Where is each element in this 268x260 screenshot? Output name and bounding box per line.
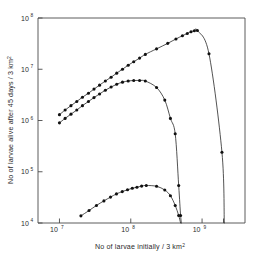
data-point — [121, 68, 124, 71]
data-point — [95, 204, 98, 207]
data-point — [189, 30, 192, 33]
svg-text:10: 10 — [21, 220, 29, 227]
data-point — [104, 89, 107, 92]
data-point — [174, 132, 177, 135]
data-curves — [59, 29, 224, 223]
data-point — [174, 37, 177, 40]
data-point — [87, 92, 90, 95]
svg-text:10: 10 — [50, 226, 58, 233]
data-point — [115, 72, 118, 75]
data-point — [220, 151, 223, 154]
data-point — [81, 96, 84, 99]
data-point — [126, 188, 129, 191]
data-point — [58, 113, 61, 116]
curve-0 — [59, 29, 224, 223]
data-point — [196, 29, 199, 32]
data-point — [155, 185, 158, 188]
figure-container: 107108109 104105106107108 No of larvae i… — [0, 0, 268, 260]
data-point — [138, 57, 141, 60]
data-point — [138, 79, 141, 82]
x-axis-tick-labels: 107108109 — [50, 225, 207, 234]
data-point — [144, 79, 147, 82]
data-point — [140, 185, 143, 188]
data-point — [110, 76, 113, 79]
svg-text:10: 10 — [21, 168, 29, 175]
data-point — [81, 104, 84, 107]
data-point — [186, 32, 189, 35]
y-tick-label-0: 104 — [21, 218, 33, 226]
data-point — [115, 192, 118, 195]
data-point — [155, 86, 158, 89]
svg-text:8: 8 — [132, 225, 135, 230]
data-point — [92, 88, 95, 91]
svg-text:9: 9 — [204, 225, 207, 230]
x-axis-ticks — [59, 219, 223, 224]
data-point — [75, 108, 78, 111]
svg-text:7: 7 — [61, 225, 64, 230]
data-point — [169, 117, 172, 120]
y-axis-title: No of larvae alive after 45 days / 3 km2 — [7, 56, 15, 184]
data-point — [98, 84, 101, 87]
data-point — [155, 47, 158, 50]
data-point — [109, 196, 112, 199]
data-point — [79, 214, 82, 217]
data-point — [166, 42, 169, 45]
data-point — [92, 96, 95, 99]
data-point — [127, 64, 130, 67]
svg-text:10: 10 — [21, 66, 29, 73]
y-tick-label-2: 106 — [21, 116, 33, 124]
svg-text:10: 10 — [121, 226, 129, 233]
data-point — [104, 79, 107, 82]
data-point — [87, 100, 90, 103]
svg-text:10: 10 — [193, 226, 201, 233]
data-point — [88, 209, 91, 212]
data-point — [127, 79, 130, 82]
x-tick-label-2: 109 — [193, 225, 207, 234]
data-point — [64, 117, 67, 120]
y-tick-label-1: 105 — [21, 167, 33, 175]
data-point — [69, 113, 72, 116]
data-point — [163, 99, 166, 102]
x-tick-label-0: 107 — [50, 225, 64, 234]
x-tick-label-1: 108 — [121, 225, 135, 234]
svg-text:6: 6 — [31, 116, 34, 121]
data-point — [135, 186, 138, 189]
data-point — [174, 204, 177, 207]
data-point — [163, 188, 166, 191]
data-point — [169, 194, 172, 197]
data-point — [131, 187, 134, 190]
data-point — [69, 104, 72, 107]
plot-frame — [38, 18, 245, 223]
axes-rectangle — [38, 18, 245, 223]
data-point — [207, 52, 210, 55]
svg-text:10: 10 — [21, 117, 29, 124]
svg-text:5: 5 — [31, 167, 34, 172]
data-point — [177, 214, 180, 217]
y-tick-label-4: 108 — [21, 13, 33, 21]
svg-text:8: 8 — [31, 13, 34, 18]
log-log-plot: 107108109 104105106107108 No of larvae i… — [0, 0, 268, 260]
y-tick-label-3: 107 — [21, 64, 33, 72]
data-point — [132, 60, 135, 63]
svg-text:7: 7 — [31, 64, 34, 69]
svg-text:10: 10 — [21, 15, 29, 22]
data-point — [121, 81, 124, 84]
data-point — [58, 121, 61, 124]
x-axis-title: No of larvae initially / 3 km2 — [95, 243, 185, 251]
data-point — [144, 53, 147, 56]
y-axis-ticks — [38, 18, 43, 223]
data-point — [181, 34, 184, 37]
data-point — [121, 190, 124, 193]
data-point — [98, 92, 101, 95]
data-point — [75, 100, 78, 103]
data-points — [58, 29, 224, 217]
y-axis-tick-labels: 104105106107108 — [21, 13, 33, 226]
data-point — [110, 85, 113, 88]
data-point — [177, 184, 180, 187]
svg-text:4: 4 — [31, 218, 34, 223]
data-point — [132, 79, 135, 82]
data-point — [193, 29, 196, 32]
data-point — [115, 83, 118, 86]
data-point — [145, 184, 148, 187]
data-point — [102, 199, 105, 202]
